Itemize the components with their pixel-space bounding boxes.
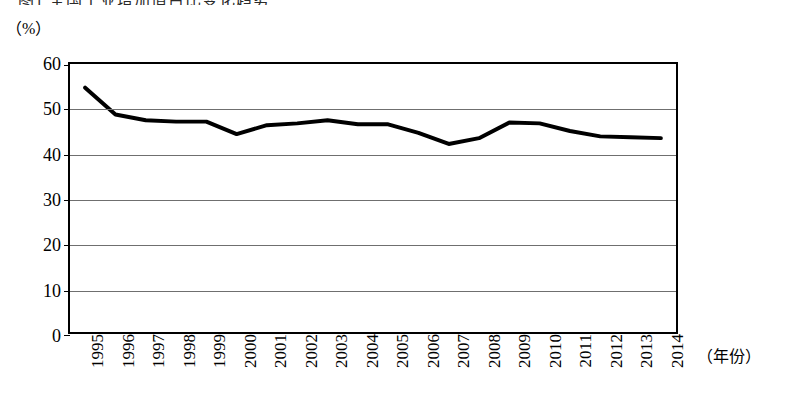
gridline	[70, 200, 676, 201]
y-axis-tick	[64, 200, 70, 201]
y-axis-tick-label: 10	[43, 282, 61, 300]
x-axis-tick-label: 2011	[577, 334, 594, 367]
y-axis-tick	[64, 109, 70, 110]
series-polyline	[85, 88, 661, 144]
x-axis-tick-label: 2007	[455, 334, 472, 368]
x-axis-tick-label: 2013	[638, 334, 655, 368]
x-axis-tick-label: 2003	[333, 334, 350, 368]
y-axis-tick	[64, 65, 70, 66]
x-axis-tick-label: 2004	[364, 334, 381, 368]
figure-title: 图1 全国工业增加值占比变化趋势	[18, 0, 578, 5]
x-axis-tick-label: 2008	[486, 334, 503, 368]
y-axis-tick	[64, 291, 70, 292]
x-axis-tick-label: 2000	[242, 334, 259, 368]
x-axis-tick-label: 1996	[120, 334, 137, 368]
x-axis-tick-label: 2014	[669, 334, 686, 368]
x-axis-tick-label: 1998	[181, 334, 198, 368]
x-axis-tick-label: 1999	[211, 334, 228, 368]
y-axis-tick-label: 50	[43, 100, 61, 118]
x-axis-labels: 1995199619971998199920002001200220032004…	[68, 334, 678, 406]
gridline	[70, 245, 676, 246]
chart-figure: 图1 全国工业增加值占比变化趋势 （%） 0102030405060 19951…	[0, 0, 797, 410]
y-axis-tick	[64, 155, 70, 156]
y-axis-tick-label: 30	[43, 191, 61, 209]
x-axis-tick-label: 2012	[608, 334, 625, 368]
y-axis-tick	[64, 245, 70, 246]
y-axis-unit-label: （%）	[6, 20, 51, 38]
y-axis-tick-label: 40	[43, 146, 61, 164]
x-axis-tick-label: 2010	[547, 334, 564, 368]
x-axis-tick-label: 2002	[303, 334, 320, 368]
x-axis-tick-label: 2005	[394, 334, 411, 368]
plot-area: 0102030405060	[68, 62, 678, 334]
gridline	[70, 155, 676, 156]
x-axis-tick-label: 1997	[150, 334, 167, 368]
x-axis-tick-label: 2006	[425, 334, 442, 368]
y-axis-tick-label: 60	[43, 55, 61, 73]
y-axis-tick-label: 20	[43, 236, 61, 254]
x-axis-unit-label: （年份）	[697, 348, 761, 366]
x-axis-tick-label: 2009	[516, 334, 533, 368]
x-axis-tick-label: 1995	[89, 334, 106, 368]
y-axis-tick-label: 0	[52, 327, 61, 345]
gridline	[70, 291, 676, 292]
line-series	[70, 64, 676, 332]
gridline	[70, 109, 676, 110]
x-axis-tick-label: 2001	[272, 334, 289, 368]
